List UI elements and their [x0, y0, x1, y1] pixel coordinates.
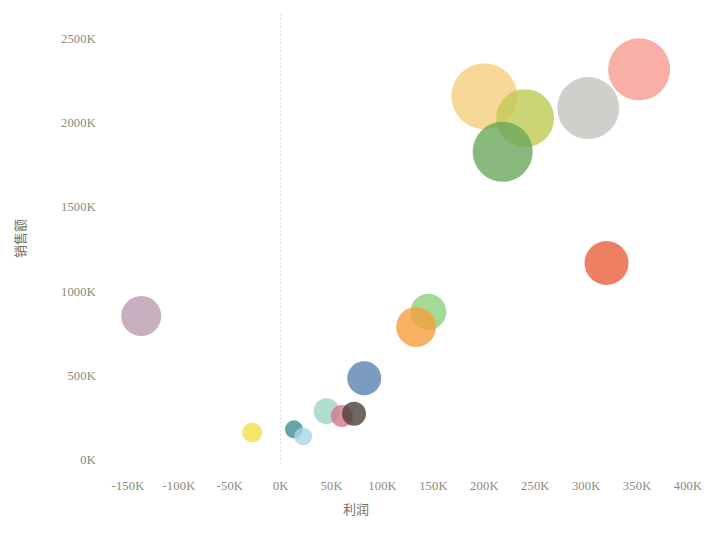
bubble-orange[interactable] [396, 307, 436, 347]
bubble-chart: 0K500K1000K1500K2000K2500K -150K-100K-50… [0, 0, 711, 546]
x-tick-label: -150K [112, 479, 145, 494]
x-tick-label: 300K [572, 479, 601, 494]
y-tick-label: 500K [0, 368, 96, 383]
plot-area [0, 0, 711, 546]
bubble-mauve[interactable] [121, 296, 161, 336]
y-tick-label: 0K [0, 453, 96, 468]
x-tick-label: -50K [217, 479, 244, 494]
x-tick-label: 400K [674, 479, 703, 494]
x-tick-label: 0K [273, 479, 289, 494]
bubble-gray[interactable] [557, 77, 619, 139]
bubble-layer [121, 38, 670, 445]
bubble-tomato[interactable] [585, 241, 629, 285]
x-tick-label: 150K [419, 479, 448, 494]
bubble-blue[interactable] [347, 361, 381, 395]
x-tick-label: -100K [162, 479, 195, 494]
bubble-salmon[interactable] [608, 38, 670, 100]
x-tick-label: 50K [321, 479, 343, 494]
y-tick-label: 1000K [0, 284, 96, 299]
y-axis-title: 销售额 [10, 219, 29, 258]
bubble-paleblue[interactable] [294, 427, 312, 445]
x-tick-label: 250K [521, 479, 550, 494]
y-tick-label: 2000K [0, 116, 96, 131]
bubble-green[interactable] [473, 122, 533, 182]
x-tick-label: 100K [368, 479, 397, 494]
bubble-darkbrown[interactable] [342, 402, 366, 426]
x-axis-title: 利润 [0, 499, 711, 518]
y-tick-label: 2500K [0, 32, 96, 47]
bubble-yellow[interactable] [242, 423, 262, 443]
y-tick-label: 1500K [0, 200, 96, 215]
x-tick-label: 200K [470, 479, 499, 494]
x-tick-label: 350K [623, 479, 652, 494]
